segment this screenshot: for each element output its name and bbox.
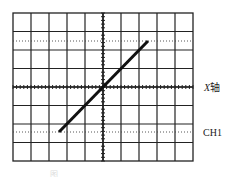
figure-caption: 图 [50,168,190,177]
channel-label: CH1 [203,128,222,138]
oscilloscope-screen [0,0,233,177]
x-axis-label: X轴 [204,83,220,93]
x-axis-suffix: 轴 [210,82,220,93]
